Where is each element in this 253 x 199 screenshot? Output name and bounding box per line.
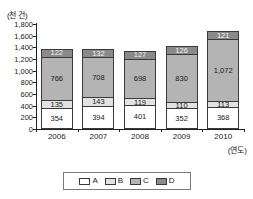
- legend-swatch-C: [130, 178, 141, 185]
- legend-item-D[interactable]: D: [156, 177, 175, 185]
- x-axis-label-2010: 2010: [201, 132, 245, 141]
- bar-segment-2009-D[interactable]: 126: [167, 47, 197, 54]
- bar-value-label: 132: [92, 50, 105, 57]
- y-axis-tick-label: 0: [29, 125, 33, 134]
- legend-item-C[interactable]: C: [130, 177, 149, 185]
- bar-segment-2007-A[interactable]: 394: [83, 106, 113, 128]
- legend-swatch-D: [156, 178, 167, 185]
- legend-label: C: [143, 177, 149, 185]
- bar-segment-2006-A[interactable]: 354: [42, 108, 72, 128]
- bar-value-label: 143: [92, 98, 105, 105]
- bar-segment-2006-D[interactable]: 122: [42, 50, 72, 57]
- x-axis-tick: [161, 129, 162, 132]
- bar-value-label: 119: [134, 99, 146, 106]
- bar-value-label: 830: [175, 75, 188, 83]
- bar-segment-2008-D[interactable]: 127: [125, 52, 155, 59]
- bar-segment-2007-B[interactable]: 143: [83, 97, 113, 105]
- bar-segment-2007-D[interactable]: 132: [83, 50, 113, 57]
- bar-value-label: 708: [92, 74, 105, 82]
- y-axis-tick-label: 1,200: [14, 55, 33, 64]
- bar-2008[interactable]: 127698119401: [124, 51, 156, 129]
- legend-item-A[interactable]: A: [79, 177, 97, 185]
- legend-label: D: [169, 177, 175, 185]
- bar-value-label: 122: [51, 50, 64, 57]
- bar-value-label: 126: [175, 47, 188, 54]
- bar-2007[interactable]: 132708143394: [82, 49, 114, 129]
- y-axis-tick-label: 1,800: [14, 20, 33, 29]
- x-axis-tick: [36, 129, 37, 132]
- bar-value-label: 1,072: [214, 67, 233, 75]
- y-axis-tick-label: 600: [20, 90, 33, 99]
- bar-segment-2006-C[interactable]: 766: [42, 57, 72, 101]
- x-axis-tick: [202, 129, 203, 132]
- bar-value-label: 135: [51, 101, 64, 108]
- legend-swatch-B: [105, 178, 116, 185]
- bar-segment-2007-C[interactable]: 708: [83, 57, 113, 97]
- x-axis-label-2006: 2006: [35, 132, 79, 141]
- x-axis-label-2008: 2008: [118, 132, 162, 141]
- bar-segment-2010-C[interactable]: 1,072: [208, 39, 238, 100]
- x-axis-line: [36, 129, 244, 130]
- y-axis-tick-label: 1,400: [14, 43, 33, 52]
- legend-item-B[interactable]: B: [105, 177, 123, 185]
- y-axis-tick-label: 1,000: [14, 66, 33, 75]
- bar-2006[interactable]: 122766135354: [41, 49, 73, 129]
- x-axis-label-2009: 2009: [160, 132, 204, 141]
- bar-2010[interactable]: 1211,072113368: [207, 31, 239, 129]
- stacked-bar-chart: (천 건) 02004006008001,0001,2001,4001,6001…: [0, 0, 253, 199]
- y-axis-tick-label: 800: [20, 78, 33, 87]
- legend-swatch-A: [79, 178, 90, 185]
- bar-value-label: 121: [217, 32, 230, 39]
- bar-segment-2009-C[interactable]: 830: [167, 54, 197, 101]
- y-axis-tick-label: 1,600: [14, 31, 33, 40]
- bar-value-label: 698: [134, 75, 147, 83]
- x-axis-tick: [244, 129, 245, 132]
- bar-value-label: 394: [92, 114, 105, 122]
- bar-value-label: 766: [51, 75, 64, 83]
- bar-segment-2010-A[interactable]: 368: [208, 107, 238, 128]
- bar-segment-2008-B[interactable]: 119: [125, 98, 155, 105]
- bar-value-label: 127: [134, 52, 147, 59]
- chart-legend: ABCD: [63, 172, 191, 190]
- plot-area: 1227661353541327081433941276981194011268…: [36, 24, 244, 129]
- x-axis-tick: [78, 129, 79, 132]
- legend-label: B: [118, 177, 123, 185]
- x-axis-title: (연도): [228, 144, 247, 155]
- legend-label: A: [92, 177, 97, 185]
- bar-2009[interactable]: 126830110352: [166, 46, 198, 129]
- y-axis-tick-label: 200: [20, 113, 33, 122]
- bar-segment-2008-A[interactable]: 401: [125, 105, 155, 128]
- bar-value-label: 354: [51, 115, 64, 123]
- bar-segment-2009-A[interactable]: 352: [167, 108, 197, 128]
- x-axis-label-2007: 2007: [76, 132, 120, 141]
- y-axis-tick-label: 400: [20, 101, 33, 110]
- bar-value-label: 401: [134, 113, 147, 121]
- bar-segment-2010-D[interactable]: 121: [208, 32, 238, 39]
- bar-segment-2006-B[interactable]: 135: [42, 100, 72, 108]
- bar-segment-2008-C[interactable]: 698: [125, 59, 155, 99]
- bar-value-label: 352: [175, 115, 188, 123]
- y-axis-unit-label: (천 건): [7, 9, 28, 20]
- bar-value-label: 368: [217, 114, 230, 122]
- x-axis-tick: [119, 129, 120, 132]
